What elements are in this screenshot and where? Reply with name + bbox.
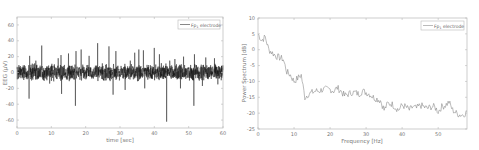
left-x-tick-label: 20 xyxy=(82,130,88,136)
right-y-tick-label: -5 xyxy=(250,62,255,68)
right-legend: Fp1 electrode xyxy=(421,21,464,30)
right-x-tick-label: 30 xyxy=(363,131,369,137)
left-legend: Fp1 electrode xyxy=(178,20,221,29)
left-y-axis-title: EEG (μV) xyxy=(2,61,9,86)
left-y-tick-label: 60 xyxy=(8,22,14,28)
left-y-tick-label: -40 xyxy=(6,101,14,107)
left-x-axis-title: time [sec] xyxy=(106,137,134,143)
right-y-tick-label: -10 xyxy=(247,78,255,84)
right-y-tick-label: 0 xyxy=(252,46,255,52)
left-y-tick-label: -60 xyxy=(6,117,14,123)
right-y-tick-label: -20 xyxy=(247,110,255,116)
right-x-tick-label: 0 xyxy=(256,131,259,137)
left-y-tick-label: 40 xyxy=(8,37,14,43)
left-x-tick-label: 0 xyxy=(15,130,18,136)
left-x-tick-label: 60 xyxy=(220,130,226,136)
right-x-tick-label: 20 xyxy=(327,131,333,137)
power-spectrum-chart: 01020304050 1050-5-10-15-20-25 Frequency… xyxy=(241,15,467,145)
right-x-tick-label: 40 xyxy=(399,131,405,137)
right-x-tick-label: 50 xyxy=(435,131,441,137)
right-y-axis-title: Power Spectrum [dB] xyxy=(241,44,248,102)
left-x-tick-label: 10 xyxy=(48,130,54,136)
left-x-tick-label: 30 xyxy=(117,130,123,136)
right-plot-area xyxy=(258,18,467,129)
right-y-tick-label: 10 xyxy=(249,15,255,21)
right-y-tick-label: -25 xyxy=(247,126,255,132)
right-y-tick-label: 5 xyxy=(252,31,255,37)
left-y-tick-label: 0 xyxy=(11,69,14,75)
left-x-tick-label: 40 xyxy=(151,130,157,136)
right-y-tick-label: -15 xyxy=(247,94,255,100)
right-x-axis-title: Frequency [Hz] xyxy=(341,138,382,145)
left-y-tick-label: 20 xyxy=(8,53,14,59)
figure: 0102030405060 6040200-20-40-60 time [sec… xyxy=(0,0,479,150)
right-x-tick-label: 10 xyxy=(291,131,297,137)
left-x-tick-label: 50 xyxy=(185,130,191,136)
eeg-time-chart: 0102030405060 6040200-20-40-60 time [sec… xyxy=(2,17,226,143)
